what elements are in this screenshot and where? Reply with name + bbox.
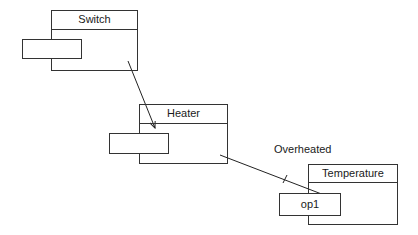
heater-port[interactable] — [109, 133, 169, 154]
switch-port[interactable] — [22, 39, 82, 59]
heater-title: Heater — [140, 105, 227, 124]
temperature-title: Temperature — [309, 165, 397, 183]
switch-title: Switch — [52, 11, 137, 30]
overheated-label: Overheated — [274, 143, 331, 155]
op1-port[interactable]: op1 — [279, 193, 341, 216]
